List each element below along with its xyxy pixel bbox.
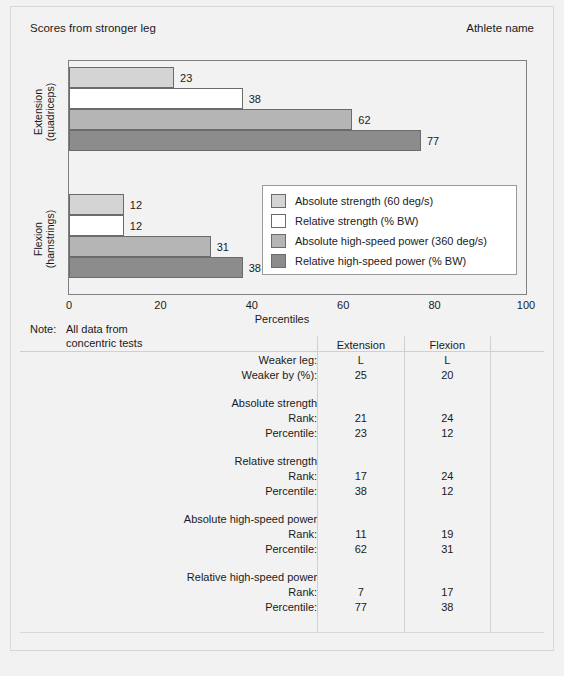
table-row: Percentile:7738	[20, 599, 544, 614]
x-axis-tick-label: 100	[517, 299, 535, 311]
spacer	[318, 498, 404, 511]
spacer	[318, 440, 404, 453]
legend-label: Absolute strength (60 deg/s)	[295, 195, 433, 207]
row-label: Percentile:	[20, 541, 318, 556]
x-axis-tick-label: 40	[246, 299, 258, 311]
cell-extension: 7	[318, 584, 404, 599]
table-header-flexion: Flexion	[404, 336, 490, 352]
table-row: Weaker leg:LL	[20, 352, 544, 368]
cell-flexion: 17	[404, 584, 490, 599]
cell-extension: 62	[318, 541, 404, 556]
spacer	[20, 382, 318, 395]
cell-extension	[318, 453, 404, 468]
bar-value-label: 23	[180, 73, 192, 84]
cell-flexion: 24	[404, 410, 490, 425]
bar	[69, 257, 243, 278]
table-row: Percentile:3812	[20, 483, 544, 498]
cell-pad	[491, 395, 544, 410]
spacer	[20, 614, 318, 633]
bar-value-label: 31	[217, 242, 229, 253]
bar-value-label: 38	[249, 94, 261, 105]
row-label: Weaker leg:	[20, 352, 318, 368]
cell-flexion	[404, 453, 490, 468]
spacer	[491, 556, 544, 569]
legend-item: Absolute high-speed power (360 deg/s)	[271, 231, 516, 251]
cell-pad	[491, 584, 544, 599]
cell-flexion: 12	[404, 425, 490, 440]
cell-pad	[491, 511, 544, 526]
spacer	[491, 614, 544, 633]
table-header-blank	[20, 336, 318, 352]
spacer	[491, 440, 544, 453]
table-header-row: ExtensionFlexion	[20, 336, 544, 352]
bar	[69, 88, 243, 109]
cell-pad	[491, 483, 544, 498]
section-heading: Absolute high-speed power	[20, 511, 318, 526]
bar	[69, 215, 124, 236]
table-section-heading-row: Absolute high-speed power	[20, 511, 544, 526]
x-axis-tick-label: 80	[428, 299, 440, 311]
spacer	[20, 440, 318, 453]
bar	[69, 109, 352, 130]
table-row: Percentile:2312	[20, 425, 544, 440]
table-spacer-row	[20, 440, 544, 453]
cell-pad	[491, 367, 544, 382]
cell-pad	[491, 541, 544, 556]
legend-swatch-absolute-strength	[271, 194, 286, 208]
bar-value-label: 12	[130, 200, 142, 211]
x-axis-tick-label: 0	[66, 299, 72, 311]
table-bottom-row	[20, 614, 544, 633]
cell-extension: 77	[318, 599, 404, 614]
bar	[69, 194, 124, 215]
cell-flexion: 24	[404, 468, 490, 483]
row-label: Rank:	[20, 468, 318, 483]
cell-pad	[491, 569, 544, 584]
spacer	[491, 382, 544, 395]
legend-label: Absolute high-speed power (360 deg/s)	[295, 235, 487, 247]
x-axis-tick-label: 60	[337, 299, 349, 311]
table-section-heading-row: Relative strength	[20, 453, 544, 468]
cell-pad	[491, 410, 544, 425]
cell-flexion	[404, 511, 490, 526]
table-row: Rank:2124	[20, 410, 544, 425]
cell-pad	[491, 425, 544, 440]
cell-pad	[491, 352, 544, 368]
cell-extension: 21	[318, 410, 404, 425]
table-row: Rank:1119	[20, 526, 544, 541]
cell-pad	[491, 599, 544, 614]
legend-item: Relative strength (% BW)	[271, 211, 516, 231]
spacer	[318, 556, 404, 569]
section-heading: Relative strength	[20, 453, 318, 468]
note-label: Note:	[30, 322, 56, 336]
spacer	[318, 614, 404, 633]
section-heading: Relative high-speed power	[20, 569, 318, 584]
table-row: Rank:717	[20, 584, 544, 599]
legend-label: Relative high-speed power (% BW)	[295, 255, 466, 267]
cell-flexion: 38	[404, 599, 490, 614]
cell-extension	[318, 569, 404, 584]
chart-legend: Absolute strength (60 deg/s) Relative st…	[262, 185, 517, 275]
cell-flexion: 19	[404, 526, 490, 541]
table-header-extension: Extension	[318, 336, 404, 352]
table-spacer-row	[20, 556, 544, 569]
cell-pad	[491, 526, 544, 541]
row-label: Percentile:	[20, 599, 318, 614]
bar-value-label: 38	[249, 263, 261, 274]
row-label: Rank:	[20, 584, 318, 599]
cell-extension: 11	[318, 526, 404, 541]
cell-extension: 17	[318, 468, 404, 483]
spacer	[404, 498, 490, 511]
bar-value-label: 12	[130, 221, 142, 232]
table-section-heading-row: Relative high-speed power	[20, 569, 544, 584]
spacer	[404, 556, 490, 569]
cell-extension: 23	[318, 425, 404, 440]
cell-extension: L	[318, 352, 404, 368]
x-axis-tick-label: 20	[154, 299, 166, 311]
note-line-1: All data from	[66, 322, 142, 336]
legend-item: Absolute strength (60 deg/s)	[271, 191, 516, 211]
legend-label: Relative strength (% BW)	[295, 215, 418, 227]
spacer	[20, 556, 318, 569]
cell-extension: 25	[318, 367, 404, 382]
cell-extension	[318, 511, 404, 526]
cell-flexion	[404, 569, 490, 584]
